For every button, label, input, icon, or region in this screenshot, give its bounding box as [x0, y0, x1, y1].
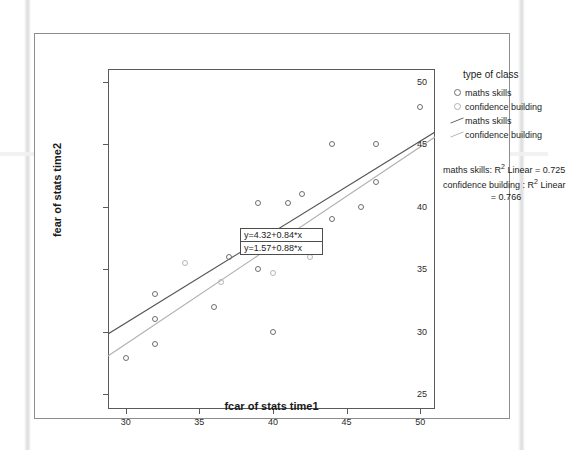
x-tick-label: 50	[415, 417, 425, 427]
data-point	[270, 329, 276, 335]
data-point	[373, 141, 379, 147]
r-squared-confidence-suffix: Linear	[538, 180, 566, 190]
data-point	[255, 266, 261, 272]
y-axis-title: fear of stats time2	[51, 60, 63, 320]
y-tick-mark	[103, 332, 108, 333]
r-squared-annotation: maths skills: R2 Linear = 0.725 confiden…	[443, 161, 570, 203]
data-point	[270, 270, 276, 276]
equation-line-confidence-building: y=1.57+0.88*x	[241, 241, 322, 254]
data-point	[211, 304, 217, 310]
data-point	[373, 179, 379, 185]
data-point	[152, 341, 158, 347]
data-point	[218, 279, 224, 285]
y-tick-label: 45	[417, 139, 427, 149]
y-tick-label: 40	[417, 202, 427, 212]
data-point	[152, 291, 158, 297]
circle-icon	[449, 89, 465, 96]
y-tick-mark	[103, 207, 108, 208]
y-tick-label: 30	[417, 327, 427, 337]
y-tick-mark	[103, 144, 108, 145]
r-squared-maths-skills: maths skills: R	[443, 165, 501, 175]
y-tick-label: 35	[417, 264, 427, 274]
x-axis-title: fcar of stats time1	[108, 400, 435, 412]
y-tick-mark	[103, 269, 108, 270]
legend-title: type of class	[463, 69, 570, 80]
data-point	[123, 355, 129, 361]
y-tick-mark	[103, 82, 108, 83]
legend-label: confidence building	[465, 130, 542, 140]
y-tick-label: 25	[417, 389, 427, 399]
data-point	[226, 254, 232, 260]
legend: type of class maths skills confidence bu…	[449, 69, 570, 142]
legend-item-marker-confidence-building[interactable]: confidence building	[449, 100, 570, 113]
equation-callout: y=4.32+0.84*x y=1.57+0.88*x	[240, 228, 323, 255]
x-tick-label: 45	[342, 417, 352, 427]
data-point	[329, 216, 335, 222]
data-point	[182, 260, 188, 266]
x-tick-label: 30	[121, 417, 131, 427]
scan-artifact-left	[24, 0, 31, 450]
legend-label: maths skills	[465, 88, 512, 98]
r-squared-confidence-value: = 0.766	[443, 191, 570, 203]
data-point	[152, 316, 158, 322]
line-icon	[449, 134, 465, 135]
legend-item-marker-maths-skills[interactable]: maths skills	[449, 86, 570, 99]
r-squared-confidence-building: confidence building : R	[443, 180, 534, 190]
legend-label: confidence building	[465, 102, 542, 112]
r-squared-maths-value: Linear = 0.725	[505, 165, 565, 175]
data-point	[358, 204, 364, 210]
data-point	[285, 200, 291, 206]
x-tick-label: 40	[268, 417, 278, 427]
legend-label: maths skills	[465, 116, 512, 126]
data-point	[299, 191, 305, 197]
circle-icon	[449, 103, 465, 110]
data-point	[417, 104, 423, 110]
legend-item-line-confidence-building[interactable]: confidence building	[449, 128, 570, 141]
scan-artifact-right	[518, 0, 525, 450]
line-icon	[449, 120, 465, 121]
chart-figure: 2530354045503035404550 fcar of stats tim…	[34, 33, 510, 419]
y-tick-mark	[103, 394, 108, 395]
data-point	[329, 141, 335, 147]
data-point	[255, 200, 261, 206]
x-tick-label: 35	[194, 417, 204, 427]
equation-line-maths-skills: y=4.32+0.84*x	[241, 229, 322, 241]
legend-item-line-maths-skills[interactable]: maths skills	[449, 114, 570, 127]
y-tick-label: 50	[417, 77, 427, 87]
